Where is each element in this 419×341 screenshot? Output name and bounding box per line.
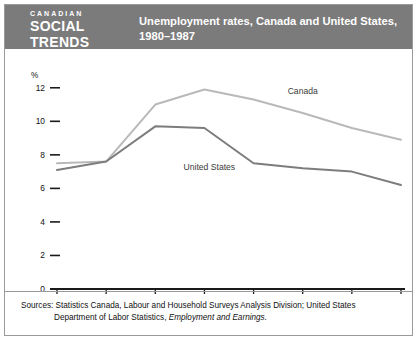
logo-line-trends: TRENDS — [30, 35, 116, 51]
chart-title-line-2: 1980–1987 — [139, 29, 402, 44]
series-line-united-states — [57, 126, 401, 185]
series-label-canada: Canada — [288, 86, 318, 96]
sources-line-1: Sources: Statistics Canada, Labour and H… — [21, 301, 356, 310]
chart-title-line-1: Unemployment rates, Canada and United St… — [139, 15, 397, 27]
logo-line-social: SOCIAL — [30, 19, 116, 35]
line-chart-svg: 024681012 198019811982198319841985198619… — [5, 49, 412, 297]
sources-line-2-italic: Employment and Earnings. — [169, 313, 267, 322]
y-tick-label-10: 10 — [36, 116, 46, 126]
y-tick-label-8: 8 — [40, 150, 45, 160]
y-tick-label-4: 4 — [40, 217, 45, 227]
chart-title: Unemployment rates, Canada and United St… — [139, 14, 402, 44]
y-tick-label-6: 6 — [40, 183, 45, 193]
series-line-canada — [57, 89, 401, 163]
logo-line-canadian: CANADIAN — [30, 10, 116, 17]
chart-header-bar: CANADIAN SOCIAL TRENDS Unemployment rate… — [5, 5, 412, 49]
sources-line-2: Department of Labor Statistics, Employme… — [21, 312, 402, 324]
y-tick-label-2: 2 — [40, 250, 45, 260]
series-label-united-states: United States — [184, 162, 236, 172]
y-axis-unit-label: % — [31, 71, 38, 80]
sources-line-2-plain: Department of Labor Statistics, — [54, 313, 169, 322]
canadian-social-trends-logo: CANADIAN SOCIAL TRENDS — [30, 10, 116, 50]
chart-plot-area: 024681012 198019811982198319841985198619… — [5, 49, 412, 297]
y-tick-label-12: 12 — [36, 83, 46, 93]
y-axis-tick-marks — [50, 88, 60, 256]
y-axis-tick-labels: 024681012 — [36, 83, 46, 294]
sources-note: Sources: Statistics Canada, Labour and H… — [21, 300, 402, 324]
chart-footer: Sources: Statistics Canada, Labour and H… — [5, 291, 412, 335]
figure-panel: CANADIAN SOCIAL TRENDS Unemployment rate… — [4, 4, 413, 336]
